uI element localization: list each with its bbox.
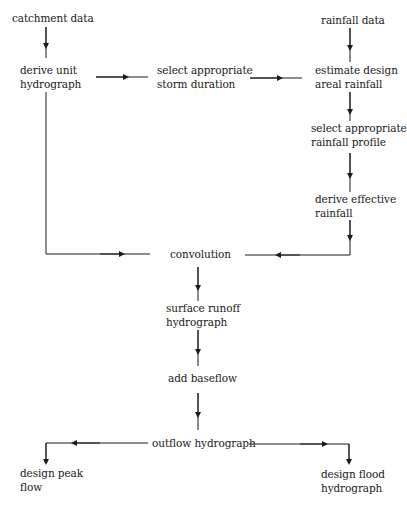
node-label: derive unit: [20, 63, 81, 77]
node-label: rainfall: [315, 206, 396, 220]
edge-effective-to-convolution: [245, 220, 350, 255]
node-select-storm-duration: select appropriate storm duration: [157, 63, 253, 91]
node-label: hydrograph: [321, 481, 385, 495]
node-select-rainfall-profile: select appropriate rainfall profile: [311, 121, 407, 149]
node-surface-runoff-hydrograph: surface runoff hydrograph: [166, 301, 240, 329]
node-design-flood-hydrograph: design flood hydrograph: [321, 467, 385, 495]
node-label: hydrograph: [166, 315, 240, 329]
node-label: estimate design: [315, 63, 398, 77]
node-label: design flood: [321, 467, 385, 481]
node-label: surface runoff: [166, 301, 240, 315]
edge-outflow-to-flood-hydrograph: [249, 444, 349, 462]
edge-outflow-to-peak-flow: [46, 443, 148, 462]
node-label: add baseflow: [168, 371, 237, 385]
node-label: areal rainfall: [315, 77, 398, 91]
node-convolution: convolution: [170, 247, 231, 261]
node-add-baseflow: add baseflow: [168, 371, 237, 385]
node-label: select appropriate: [157, 63, 253, 77]
edge-unit-hydrograph-to-convolution: [46, 92, 150, 254]
node-estimate-areal-rainfall: estimate design areal rainfall: [315, 63, 398, 91]
node-label: outflow hydrograph: [152, 436, 256, 450]
node-outflow-hydrograph: outflow hydrograph: [152, 436, 256, 450]
node-rainfall-data: rainfall data: [321, 13, 385, 27]
node-label: rainfall profile: [311, 135, 407, 149]
node-label: derive effective: [315, 192, 396, 206]
node-catchment-data: catchment data: [12, 11, 94, 25]
node-label: catchment data: [12, 11, 94, 25]
node-label: select appropriate: [311, 121, 407, 135]
node-label: hydrograph: [20, 77, 81, 91]
node-label: convolution: [170, 247, 231, 261]
node-label: storm duration: [157, 77, 253, 91]
node-design-peak-flow: design peak flow: [20, 466, 83, 494]
node-derive-effective-rainfall: derive effective rainfall: [315, 192, 396, 220]
node-derive-unit-hydrograph: derive unit hydrograph: [20, 63, 81, 91]
node-label: rainfall data: [321, 13, 385, 27]
node-label: flow: [20, 480, 83, 494]
node-label: design peak: [20, 466, 83, 480]
